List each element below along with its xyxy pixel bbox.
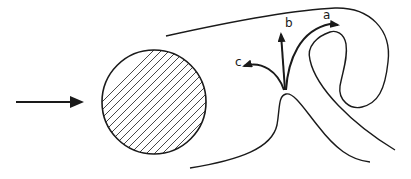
- lower-streamline: [190, 94, 370, 168]
- arrow-label-b: b: [285, 16, 293, 30]
- arrow-label-a: a: [323, 8, 330, 22]
- flow-diagram: a b c: [0, 0, 411, 179]
- arrow-label-c: c: [235, 55, 242, 69]
- flow-arrow-a: a: [286, 8, 338, 90]
- incoming-flow-arrow: [16, 96, 84, 108]
- flow-arrow-c: c: [235, 55, 284, 90]
- hatched-cylinder: [0, 20, 328, 179]
